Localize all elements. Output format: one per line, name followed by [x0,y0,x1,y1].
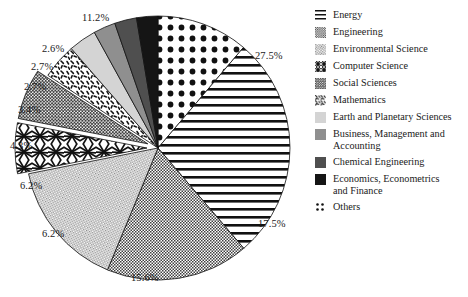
legend-item-math[interactable]: Mathematics [315,94,468,106]
legend-swatch-others-icon [315,202,326,213]
legend-label-economics: Economics, Econometrics and Finance [333,173,439,196]
slice-value-earth: 3.4% [18,104,40,115]
legend-swatch-earth-icon [315,112,326,123]
legend-label-business: Business, Management and Accounting [333,128,445,151]
legend-label-compsci: Computer Science [333,60,408,72]
legend-item-economics[interactable]: Economics, Econometrics and Finance [315,173,468,196]
legend-label-earth: Earth and Planetary Sciences [333,111,452,123]
slice-value-math: 4.3% [10,140,32,151]
legend-swatch-compsci-icon [315,61,326,72]
legend-item-others[interactable]: Others [315,201,468,213]
legend-item-compsci[interactable]: Computer Science [315,60,468,72]
slice-value-economics: 2.6% [42,43,64,54]
legend-label-socsci: Social Sciences [333,77,397,89]
legend-item-chemeng[interactable]: Chemical Engineering [315,156,468,168]
legend-label-envsci: Environmental Science [333,43,428,55]
legend-swatch-energy-icon [315,10,326,21]
slice-value-business: 2.7% [24,81,46,92]
legend-swatch-envsci-icon [315,44,326,55]
chart-legend: EnergyEngineeringEnvironmental ScienceCo… [315,9,468,218]
legend-swatch-math-icon [315,95,326,106]
legend-swatch-chemeng-icon [315,157,326,168]
legend-label-math: Mathematics [333,94,386,106]
legend-swatch-engineering-icon [315,27,326,38]
slice-value-energy: 27.5% [255,50,283,61]
legend-item-envsci[interactable]: Environmental Science [315,43,468,55]
legend-swatch-socsci-icon [315,78,326,89]
legend-item-business[interactable]: Business, Management and Accounting [315,128,468,151]
legend-label-engineering: Engineering [333,26,383,38]
legend-label-energy: Energy [333,9,362,21]
slice-value-envsci: 15.6% [131,272,159,283]
pie-chart-figure: 11.2% 27.5% 17.5% 15.6% 6.2% 6.2% 4.3% 3… [0,0,468,297]
slice-value-engineering: 17.5% [258,218,286,229]
legend-swatch-economics-icon [315,174,326,185]
slice-value-chemeng: 2.7% [31,61,53,72]
legend-item-earth[interactable]: Earth and Planetary Sciences [315,111,468,123]
pie-slices-group [15,16,290,280]
legend-label-others: Others [333,201,360,213]
legend-item-engineering[interactable]: Engineering [315,26,468,38]
legend-item-energy[interactable]: Energy [315,9,468,21]
slice-value-compsci: 6.2% [42,228,64,239]
slice-value-others: 11.2% [82,12,109,23]
legend-label-chemeng: Chemical Engineering [333,156,424,168]
legend-item-socsci[interactable]: Social Sciences [315,77,468,89]
slice-value-socsci: 6.2% [20,180,42,191]
legend-swatch-business-icon [315,129,326,140]
pie-chart-plot-area: 11.2% 27.5% 17.5% 15.6% 6.2% 6.2% 4.3% 3… [0,0,300,297]
